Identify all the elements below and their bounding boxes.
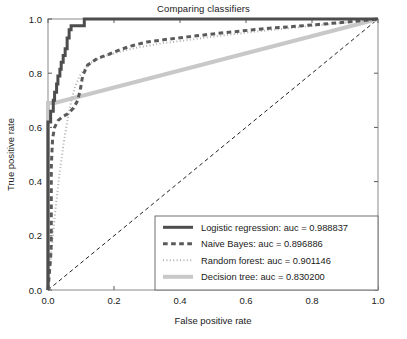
y-tick-label: 1.0: [29, 14, 42, 25]
plot-area-wrapper: 0.00.20.40.60.81.00.00.20.40.60.81.0Fals…: [0, 0, 407, 339]
x-tick-label: 0.4: [173, 295, 186, 306]
x-tick-label: 0.2: [107, 295, 120, 306]
y-tick-label: 0.0: [29, 285, 42, 296]
chart-root: Comparing classifiers 0.00.20.40.60.81.0…: [0, 0, 407, 339]
x-tick-label: 0.6: [239, 295, 252, 306]
legend-label-logistic-regression: Logistic regression: auc = 0.988837: [201, 223, 348, 233]
y-axis-title: True positive rate: [5, 118, 16, 191]
y-tick-label: 0.8: [29, 68, 42, 79]
x-axis-title: False positive rate: [174, 315, 251, 326]
y-tick-label: 0.4: [29, 176, 42, 187]
legend-label-naive-bayes: Naive Bayes: auc = 0.896886: [201, 239, 323, 249]
x-tick-label: 1.0: [371, 295, 384, 306]
legend-label-random-forest: Random forest: auc = 0.901146: [201, 256, 331, 266]
x-tick-label: 0.8: [305, 295, 318, 306]
legend-label-decision-tree: Decision tree: auc = 0.830200: [201, 272, 325, 282]
y-tick-label: 0.6: [29, 122, 42, 133]
y-tick-label: 0.2: [29, 230, 42, 241]
x-tick-label: 0.0: [41, 295, 54, 306]
roc-chart-svg: 0.00.20.40.60.81.00.00.20.40.60.81.0Fals…: [0, 0, 407, 339]
